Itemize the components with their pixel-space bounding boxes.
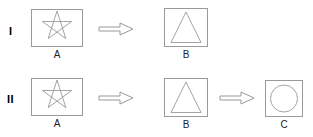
arrow-right-icon-I-1 — [98, 22, 135, 36]
row-label-2: II — [7, 94, 14, 105]
circle-in-square-icon — [265, 80, 303, 117]
pentagram-in-square-icon — [31, 78, 83, 116]
arrow-right-icon-II-1 — [98, 91, 135, 105]
panel-II-C: C — [265, 80, 303, 127]
panel-caption-I-B: B — [164, 50, 208, 60]
triangle-in-square-icon — [164, 8, 208, 47]
panel-caption-II-B: B — [164, 120, 208, 130]
panel-caption-II-C: C — [265, 120, 303, 130]
figure-diagram: I A B II — [0, 0, 313, 137]
panel-caption-II-A: A — [31, 119, 83, 129]
panel-II-B: B — [164, 78, 208, 127]
panel-I-B: B — [164, 8, 208, 57]
panel-II-A: A — [31, 78, 83, 126]
panel-I-A: A — [31, 9, 83, 57]
row-label-1: I — [9, 26, 13, 37]
arrow-right-icon-II-2 — [219, 91, 256, 105]
pentagram-in-square-icon — [31, 9, 83, 47]
triangle-in-square-icon — [164, 78, 208, 117]
panel-caption-I-A: A — [31, 50, 83, 60]
